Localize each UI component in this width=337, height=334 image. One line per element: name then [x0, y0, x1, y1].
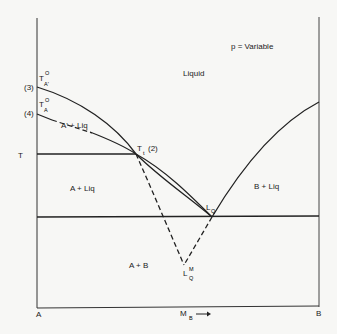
region-a-prime-liq: A' + Liq — [61, 122, 88, 130]
region-a-b: A + B — [129, 262, 148, 270]
x-axis-left-label: A — [36, 311, 41, 319]
point-tag-4: (4) — [24, 110, 34, 118]
liquidus-a-prime-curve — [37, 87, 212, 217]
point-metastable: L — [183, 270, 187, 278]
eutectic-isotherm — [37, 216, 319, 217]
liquidus-a-start — [37, 114, 52, 120]
point-metastable-sub: Q — [189, 275, 193, 281]
phase-diagram-lines — [0, 0, 337, 334]
point-triple: T — [137, 145, 142, 153]
point-t-a-sub: A — [44, 107, 48, 113]
point-eutectic-sub: Q — [211, 208, 215, 214]
region-liquid: Liquid — [183, 70, 204, 78]
region-b-liq: B + Liq — [254, 183, 279, 191]
x-axis-label-sub: B — [189, 315, 193, 321]
point-eutectic: L — [206, 204, 210, 212]
point-tag-3: (3) — [24, 84, 34, 92]
metastable-liquidus-b — [184, 217, 212, 265]
point-triple-tag: (2) — [148, 145, 158, 153]
point-triple-sub: t — [143, 150, 145, 156]
metastable-liquidus-a-prime — [136, 154, 184, 265]
condition-label: p = Variable — [231, 43, 273, 51]
phase-diagram: p = Variable Liquid A' + Liq A + Liq B +… — [0, 0, 337, 334]
point-metastable-sup: M — [189, 266, 194, 272]
region-a-liq: A + Liq — [70, 185, 95, 193]
point-t-a-prime-sub: A' — [44, 81, 49, 87]
x-axis-label: M — [180, 310, 187, 318]
composition-arrow-icon — [207, 312, 211, 317]
bottom-axis — [37, 306, 319, 308]
x-axis-right-label: B — [316, 310, 321, 318]
y-axis-label: T — [18, 152, 23, 160]
liquidus-b-curve — [212, 102, 319, 217]
point-t-a-prime-sup: O — [45, 70, 49, 76]
point-t-a-sup: O — [45, 97, 49, 103]
